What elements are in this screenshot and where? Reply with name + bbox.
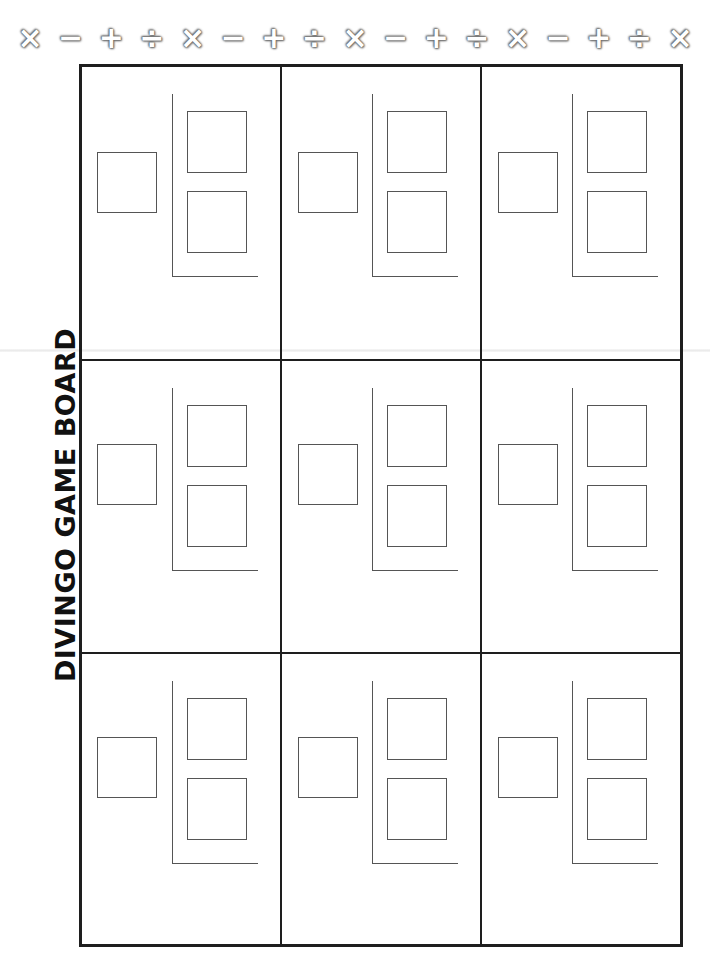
- factor-box-top[interactable]: [187, 405, 247, 467]
- dividend-answer-box[interactable]: [97, 444, 157, 505]
- factor-box-bottom[interactable]: [387, 485, 447, 547]
- plus-icon: +: [254, 18, 294, 58]
- board-cell: [482, 361, 680, 654]
- minus-icon: −: [51, 18, 91, 58]
- dividend-answer-box[interactable]: [97, 152, 157, 213]
- board-cell: [282, 654, 482, 944]
- dividend-answer-box[interactable]: [298, 152, 358, 213]
- factor-box-top[interactable]: [187, 698, 247, 760]
- board-cell: [82, 361, 282, 654]
- board-cell: [82, 67, 282, 361]
- plus-icon: +: [579, 18, 619, 58]
- dividend-answer-box[interactable]: [498, 444, 558, 505]
- factor-box-bottom[interactable]: [187, 778, 247, 840]
- divide-icon: ÷: [457, 18, 497, 58]
- factor-box-top[interactable]: [387, 405, 447, 467]
- dividend-answer-box[interactable]: [498, 737, 558, 798]
- factor-box-bottom[interactable]: [187, 485, 247, 547]
- dividend-answer-box[interactable]: [298, 737, 358, 798]
- factor-box-top[interactable]: [587, 111, 647, 173]
- factor-box-bottom[interactable]: [187, 191, 247, 253]
- divide-icon: ÷: [132, 18, 172, 58]
- operator-symbol-border: × − + ÷ × − + ÷ × − + ÷ × − + ÷ ×: [10, 18, 700, 58]
- minus-icon: −: [213, 18, 253, 58]
- factor-box-bottom[interactable]: [587, 191, 647, 253]
- board-cell: [82, 654, 282, 944]
- multiply-icon: ×: [335, 18, 375, 58]
- board-cell: [282, 67, 482, 361]
- minus-icon: −: [376, 18, 416, 58]
- factor-box-bottom[interactable]: [387, 191, 447, 253]
- multiply-icon: ×: [10, 18, 50, 58]
- divide-icon: ÷: [619, 18, 659, 58]
- game-board-grid: [79, 64, 683, 947]
- plus-icon: +: [416, 18, 456, 58]
- board-cell: [482, 654, 680, 944]
- plus-icon: +: [91, 18, 131, 58]
- factor-box-top[interactable]: [387, 698, 447, 760]
- multiply-icon: ×: [173, 18, 213, 58]
- factor-box-top[interactable]: [587, 405, 647, 467]
- minus-icon: −: [538, 18, 578, 58]
- divide-icon: ÷: [294, 18, 334, 58]
- factor-box-top[interactable]: [587, 698, 647, 760]
- factor-box-bottom[interactable]: [387, 778, 447, 840]
- multiply-icon: ×: [498, 18, 538, 58]
- dividend-answer-box[interactable]: [97, 737, 157, 798]
- factor-box-top[interactable]: [187, 111, 247, 173]
- board-cell: [482, 67, 680, 361]
- multiply-icon: ×: [660, 18, 700, 58]
- dividend-answer-box[interactable]: [498, 152, 558, 213]
- board-cell: [282, 361, 482, 654]
- factor-box-bottom[interactable]: [587, 778, 647, 840]
- dividend-answer-box[interactable]: [298, 444, 358, 505]
- factor-box-top[interactable]: [387, 111, 447, 173]
- factor-box-bottom[interactable]: [587, 485, 647, 547]
